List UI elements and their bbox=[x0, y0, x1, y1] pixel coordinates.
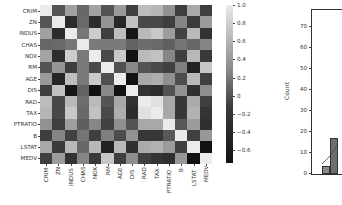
heatmap-cell bbox=[89, 28, 102, 40]
heatmap-cell bbox=[151, 141, 164, 153]
column-label: CRIM bbox=[43, 168, 49, 182]
tick-mark bbox=[108, 164, 109, 166]
heatmap-cell bbox=[65, 5, 78, 17]
heatmap-cell bbox=[101, 16, 114, 28]
heatmap-cell bbox=[89, 50, 102, 62]
heatmap-cell bbox=[187, 85, 200, 97]
heatmap-cell bbox=[163, 96, 176, 108]
heatmap-cell bbox=[77, 16, 90, 28]
heatmap-cell bbox=[175, 28, 188, 40]
heatmap-cell bbox=[65, 141, 78, 153]
heatmap-cell bbox=[52, 85, 65, 97]
histogram-y-tick-label: 0 bbox=[293, 170, 307, 176]
heatmap-cell bbox=[175, 73, 188, 85]
heatmap-cell bbox=[163, 73, 176, 85]
heatmap-cell bbox=[77, 85, 90, 97]
heatmap-cell bbox=[126, 50, 139, 62]
heatmap-cell bbox=[101, 73, 114, 85]
column-label: PTRATIO bbox=[166, 170, 172, 193]
heatmap-cell bbox=[151, 85, 164, 97]
colorbar-label: −0.4 bbox=[237, 129, 251, 135]
heatmap-cell bbox=[89, 153, 102, 165]
column-label: RM bbox=[105, 166, 111, 175]
column-label: MEDV bbox=[203, 166, 209, 182]
heatmap-cell bbox=[163, 5, 176, 17]
row-label: MEDV bbox=[1, 155, 37, 161]
heatmap-cell bbox=[101, 39, 114, 51]
heatmap-cell bbox=[200, 50, 213, 62]
tick-mark bbox=[194, 164, 195, 166]
heatmap-cell bbox=[151, 62, 164, 74]
heatmap-cell bbox=[187, 73, 200, 85]
colorbar-tick bbox=[233, 41, 235, 42]
tick-mark bbox=[169, 164, 170, 166]
column-label: AGE bbox=[117, 167, 123, 179]
heatmap-cell bbox=[200, 5, 213, 17]
heatmap-cell bbox=[151, 107, 164, 119]
y-axis-label: Count bbox=[283, 82, 290, 100]
heatmap-cell bbox=[40, 85, 53, 97]
heatmap-cell bbox=[65, 130, 78, 142]
colorbar-tick bbox=[233, 150, 235, 151]
heatmap-cell bbox=[101, 85, 114, 97]
heatmap-cell bbox=[40, 28, 53, 40]
heatmap-cell bbox=[200, 96, 213, 108]
heatmap-cell bbox=[52, 16, 65, 28]
heatmap-cell bbox=[151, 28, 164, 40]
heatmap-cell bbox=[40, 16, 53, 28]
heatmap-cell bbox=[65, 28, 78, 40]
heatmap-cell bbox=[200, 153, 213, 165]
heatmap-cell bbox=[175, 107, 188, 119]
heatmap-cell bbox=[163, 119, 176, 131]
heatmap-cell bbox=[138, 28, 151, 40]
tick-mark bbox=[46, 164, 47, 166]
heatmap-cell bbox=[126, 62, 139, 74]
tick-mark bbox=[95, 164, 96, 166]
heatmap-cell bbox=[65, 50, 78, 62]
heatmap-cell bbox=[200, 62, 213, 74]
heatmap-cell bbox=[89, 5, 102, 17]
heatmap-cell bbox=[151, 96, 164, 108]
heatmap-cell bbox=[200, 39, 213, 51]
heatmap-cell bbox=[187, 96, 200, 108]
row-label: RAD bbox=[1, 99, 37, 105]
heatmap-cell bbox=[187, 28, 200, 40]
colorbar-gradient bbox=[226, 5, 233, 163]
histogram-axes bbox=[311, 9, 342, 175]
heatmap-cell bbox=[187, 39, 200, 51]
heatmap-cell bbox=[114, 85, 127, 97]
heatmap-cell bbox=[187, 107, 200, 119]
heatmap-cell bbox=[89, 119, 102, 131]
colorbar-tick bbox=[233, 59, 235, 60]
colorbar-label: 0.4 bbox=[237, 56, 246, 62]
heatmap-cell bbox=[151, 50, 164, 62]
heatmap-cell bbox=[65, 39, 78, 51]
heatmap-cell bbox=[126, 141, 139, 153]
heatmap-cell bbox=[126, 39, 139, 51]
heatmap-cell bbox=[151, 5, 164, 17]
heatmap-cell bbox=[175, 119, 188, 131]
heatmap-cell bbox=[175, 5, 188, 17]
row-label: DIS bbox=[1, 87, 37, 93]
heatmap-cell bbox=[126, 153, 139, 165]
heatmap-cell bbox=[40, 130, 53, 142]
heatmap-cell bbox=[52, 28, 65, 40]
heatmap-cell bbox=[138, 73, 151, 85]
tick-mark bbox=[181, 164, 182, 166]
heatmap-cell bbox=[101, 107, 114, 119]
heatmap-cell bbox=[77, 28, 90, 40]
heatmap-cell bbox=[175, 96, 188, 108]
heatmap-cell bbox=[163, 16, 176, 28]
heatmap-cell bbox=[52, 73, 65, 85]
heatmap-cell bbox=[200, 130, 213, 142]
heatmap-cell bbox=[187, 50, 200, 62]
heatmap-cell bbox=[77, 62, 90, 74]
heatmap-cell bbox=[52, 50, 65, 62]
heatmap-cell bbox=[89, 130, 102, 142]
histogram-y-tick-label: 50 bbox=[293, 65, 307, 71]
heatmap-cell bbox=[114, 5, 127, 17]
column-label: LSTAT bbox=[191, 170, 197, 186]
heatmap-cell bbox=[114, 50, 127, 62]
heatmap-cell bbox=[52, 130, 65, 142]
row-label: PTRATIO bbox=[1, 121, 37, 127]
